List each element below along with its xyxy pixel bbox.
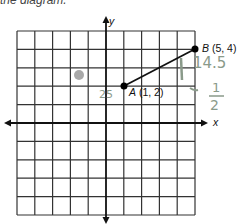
point-b-coords: (5, 4) [212, 42, 237, 54]
point-b-dot [192, 46, 199, 53]
point-a-name: A [129, 86, 136, 98]
point-b-label: B (5, 4) [202, 42, 236, 54]
x-axis-left-arrow [4, 120, 11, 127]
point-b-name: B [202, 42, 209, 54]
y-axis-label: y [109, 15, 114, 27]
x-axis-label: x [213, 116, 218, 128]
point-a-label: A (1, 2) [129, 86, 163, 98]
handwritten-fraction-numerator: 1 [212, 80, 220, 95]
handwritten-25: 25 [99, 88, 113, 101]
x-axis-right-arrow [201, 120, 208, 127]
point-a-coords: (1, 2) [139, 86, 164, 98]
handwritten-14-5: 14.5 [193, 54, 226, 72]
pencil-smudge [74, 70, 84, 80]
coordinate-grid [0, 0, 242, 224]
point-a-dot [121, 83, 128, 90]
handwritten-comma [190, 88, 198, 90]
handwritten-fraction-denominator: 2 [210, 97, 219, 113]
y-axis-down-arrow [103, 217, 110, 224]
handwritten-stroke [181, 58, 182, 80]
